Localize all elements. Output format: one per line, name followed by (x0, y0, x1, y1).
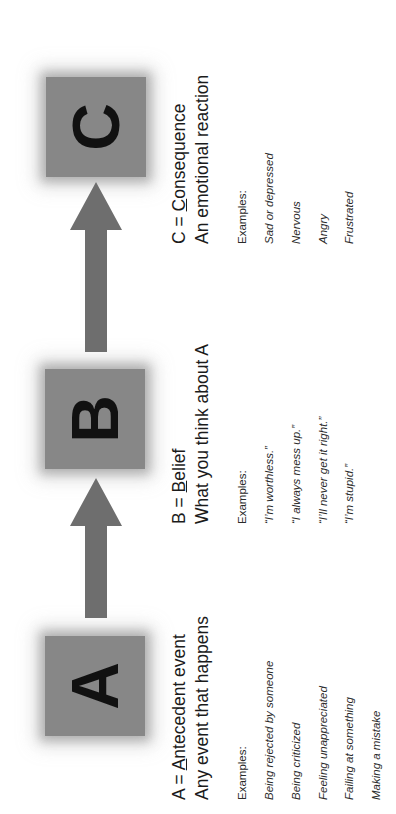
heading-b-prefix: B = (169, 492, 189, 524)
node-letter-b: B (62, 395, 128, 443)
list-item: “I’ll never get it right.” (317, 274, 331, 524)
column-a: A = Antecedent event Any event that happ… (168, 550, 384, 800)
abc-model-diagram: A B C A = Antecedent event Any event tha… (0, 0, 396, 814)
heading-b-rest: elief (169, 449, 189, 481)
node-letter-a: A (62, 662, 128, 710)
heading-c-line1: C = Consequence (168, 4, 191, 244)
list-item: “I’m worthless.” (263, 274, 277, 524)
list-item: Being criticized (290, 550, 304, 800)
heading-c-line2: An emotional reaction (191, 4, 214, 244)
examples-list-a: Being rejected by someone Being criticiz… (263, 550, 384, 800)
examples-label-b: Examples: (236, 274, 250, 524)
heading-c-prefix: C = (169, 211, 189, 244)
rotated-page-canvas: A B C A = Antecedent event Any event tha… (0, 0, 396, 814)
column-c: C = Consequence An emotional reaction Ex… (168, 4, 357, 244)
list-item: Angry (317, 4, 331, 244)
node-box-b: B (45, 369, 145, 469)
node-box-c: C (46, 77, 146, 177)
heading-a-line1: A = Antecedent event (168, 550, 191, 800)
list-item: Being rejected by someone (263, 550, 277, 800)
heading-b-underlined: B (169, 481, 189, 493)
examples-label-c: Examples: (236, 4, 250, 244)
node-box-a: A (45, 636, 145, 736)
examples-label-a: Examples: (236, 550, 250, 800)
list-item: “I always mess up.” (290, 274, 304, 524)
arrow-b-to-c-icon (70, 182, 122, 352)
heading-a-line2: Any event that happens (191, 550, 214, 800)
list-item: Making a mistake (370, 550, 384, 800)
list-item: Frustrated (343, 4, 357, 244)
examples-list-b: “I’m worthless.” “I always mess up.” “I’… (263, 274, 357, 524)
node-letter-c: C (63, 103, 129, 151)
heading-a-prefix: A = (169, 770, 189, 800)
heading-c-underlined: C (169, 199, 189, 212)
examples-list-c: Sad or depressed Nervous Angry Frustrate… (263, 4, 357, 244)
heading-b-line1: B = Belief (168, 274, 191, 524)
heading-a-rest: ntecedent event (169, 634, 189, 759)
list-item: Nervous (290, 4, 304, 244)
heading-a-underlined: A (169, 759, 189, 771)
heading-c-rest: onsequence (169, 103, 189, 198)
list-item: Failing at something (343, 550, 357, 800)
column-b: B = Belief What you think about A Exampl… (168, 274, 357, 524)
list-item: Feeling unappreciated (317, 550, 331, 800)
heading-b-line2: What you think about A (191, 274, 214, 524)
list-item: “I’m stupid.” (343, 274, 357, 524)
arrow-a-to-b-icon (70, 478, 122, 618)
list-item: Sad or depressed (263, 4, 277, 244)
